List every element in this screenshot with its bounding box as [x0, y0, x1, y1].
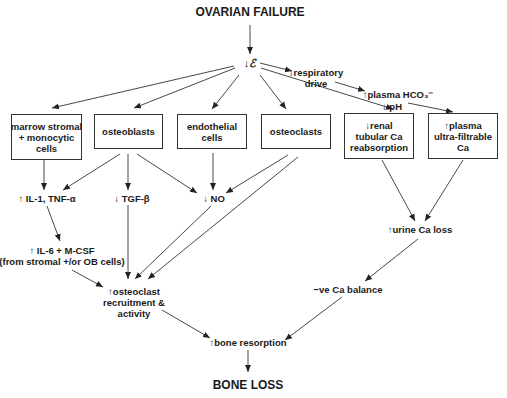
node-respiratory-drive: ↓respiratory drive [289, 67, 343, 89]
node-il1-tnf: ↑ IL-1, TNF-α [18, 193, 75, 204]
node-il6-mcsf: ↑ IL-6 + M-CSF (from stromal +/or OB cel… [0, 245, 125, 267]
box-ultrafiltrable-ca: ↑plasma ultra-filtrable Ca [428, 113, 498, 159]
node-tgf-beta: ↓ TGF-β [114, 193, 149, 204]
node-bone-resorption: ↑bone resorption [209, 337, 286, 348]
node-negative-ca-balance: −ve Ca balance [314, 284, 383, 295]
box-endothelial-cells: endothelial cells [177, 114, 247, 149]
box-osteoblasts: osteoblasts [94, 114, 163, 149]
node-ph: ↓ pH [382, 101, 402, 112]
title-ovarian-failure: OVARIAN FAILURE [195, 7, 304, 18]
box-osteoclasts: osteoclasts [261, 114, 331, 149]
node-urine-ca-loss: ↑urine Ca loss [388, 224, 452, 235]
node-estrogen: ↓ℰ [244, 58, 257, 69]
box-marrow-stromal: marrow stromal + monocytic cells [11, 114, 82, 160]
node-osteoclast-recruitment: ↑osteoclast recruitment & activity [103, 286, 165, 319]
footer-bone-loss: BONE LOSS [213, 380, 284, 391]
box-renal-reabsorption: ↓renal tubular Ca reabsorption [344, 113, 414, 159]
node-plasma-hco3: ↑plasma HCO₃⁻ [363, 89, 434, 100]
diagram-canvas: OVARIAN FAILURE ↓ℰ ↓respiratory drive ↑p… [0, 0, 507, 398]
node-no: ↓ NO [203, 193, 225, 204]
